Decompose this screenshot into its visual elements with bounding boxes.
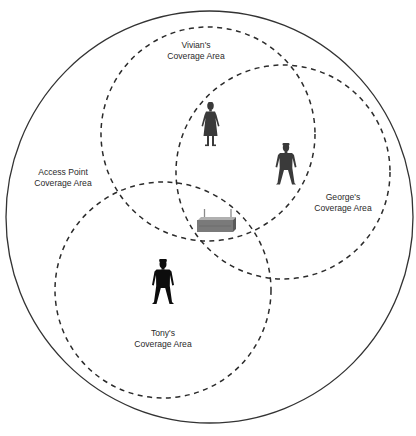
george-coverage-label: George's Coverage Area xyxy=(314,192,372,213)
tony-coverage-circle xyxy=(55,182,271,398)
vivian-woman-icon xyxy=(202,102,220,146)
tony-man-icon xyxy=(152,259,174,304)
vivian-coverage-label: Vivian's Coverage Area xyxy=(167,40,225,61)
vivian-label-line1: Vivian's xyxy=(181,40,210,50)
vivian-label-line2: Coverage Area xyxy=(167,51,225,61)
tony-coverage-label: Tony's Coverage Area xyxy=(134,328,192,349)
tony-label-line2: Coverage Area xyxy=(134,339,192,349)
george-label-line2: Coverage Area xyxy=(314,203,372,213)
tony-label-line1: Tony's xyxy=(151,328,175,338)
george-label-line1: George's xyxy=(326,192,361,202)
access-point-coverage-label: Access Point Coverage Area xyxy=(34,167,92,188)
george-man-icon xyxy=(276,143,297,185)
access-point-label-line2: Coverage Area xyxy=(34,178,92,188)
access-point-device-icon xyxy=(197,209,236,232)
coverage-diagram: Vivian's Coverage Area Access Point Cove… xyxy=(0,0,416,436)
access-point-label-line1: Access Point xyxy=(38,167,88,177)
